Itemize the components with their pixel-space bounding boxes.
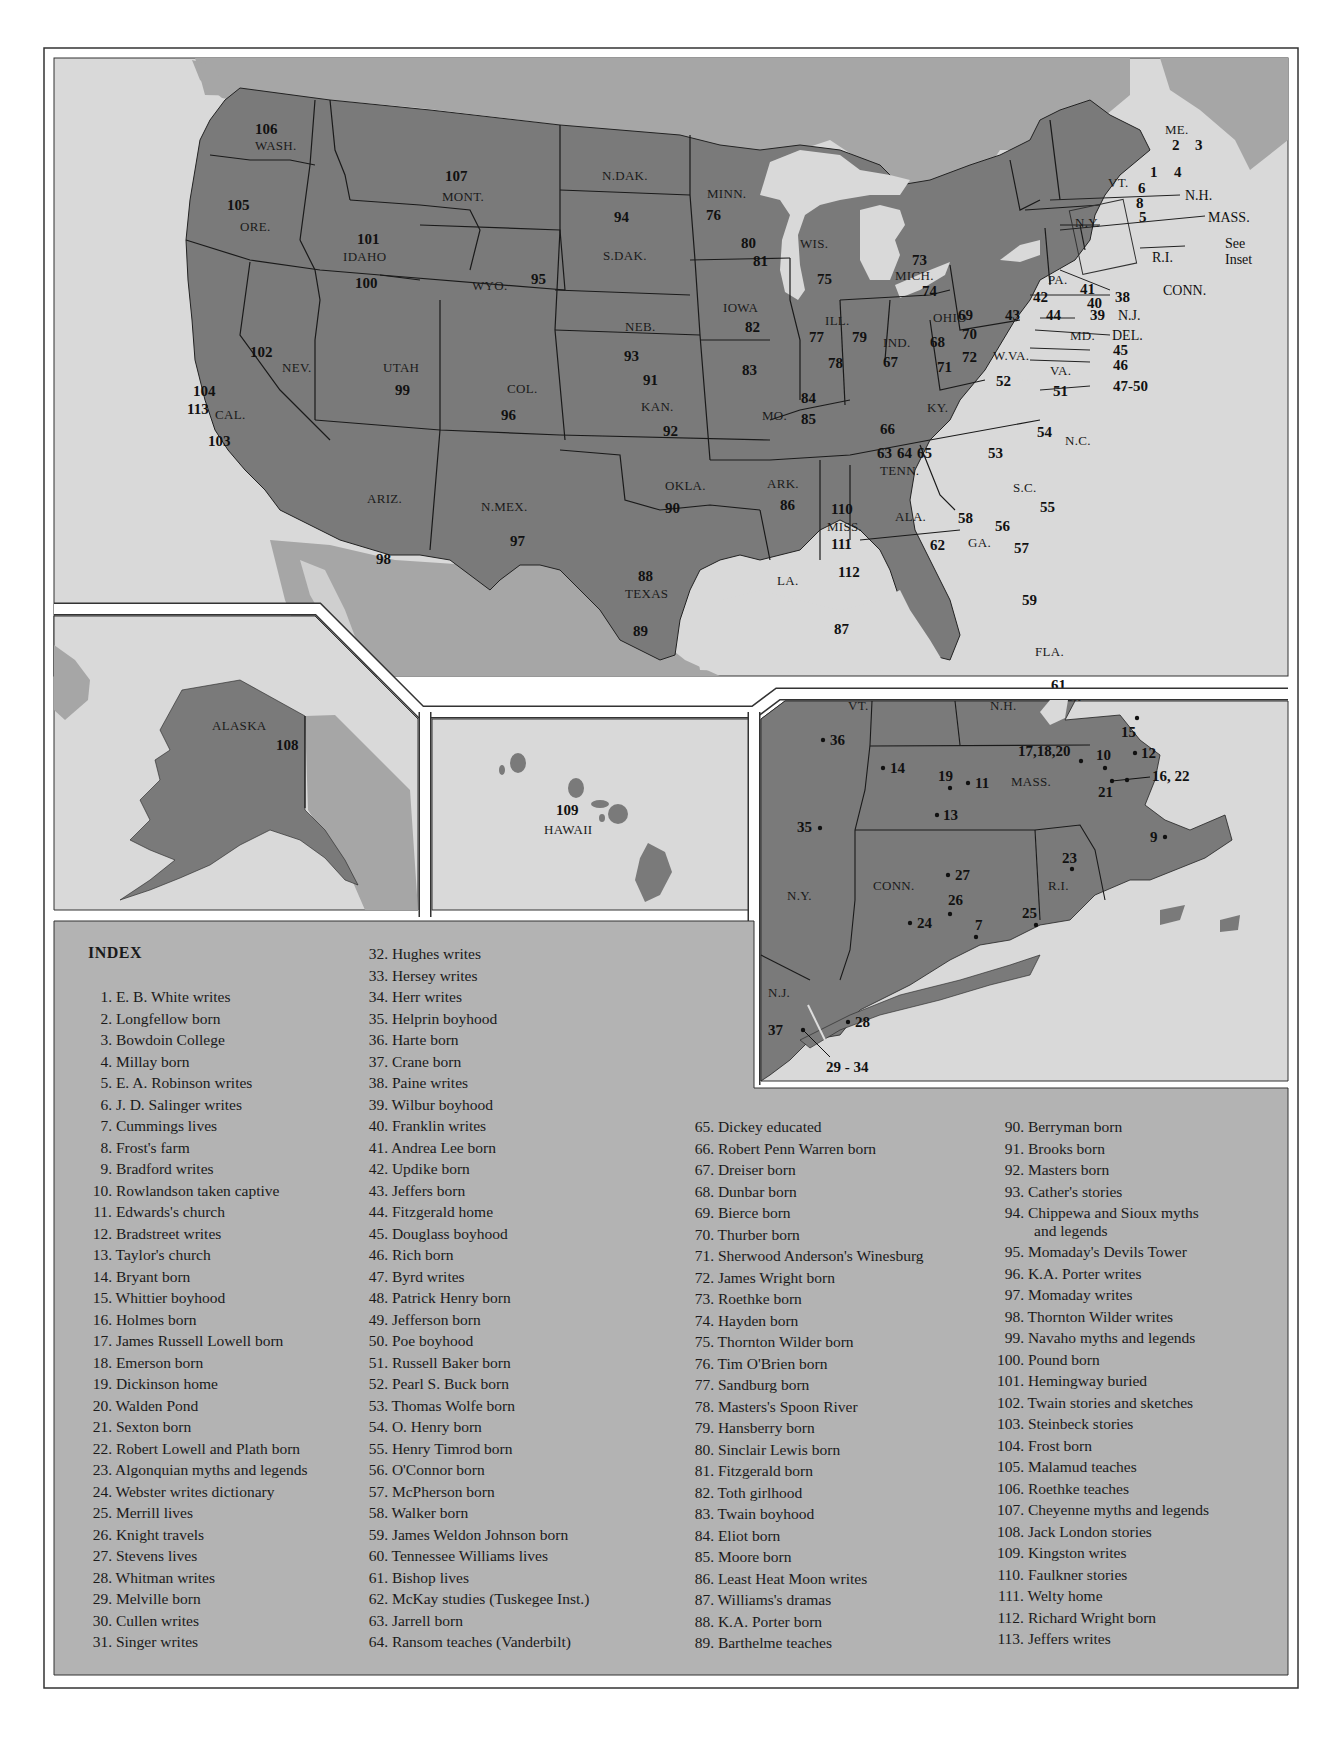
index-entry: 19. Dickinson home: [84, 1373, 307, 1395]
index-entry-text: Hersey writes: [388, 967, 478, 984]
index-entry-text: Pearl S. Buck born: [388, 1375, 509, 1392]
index-entry-number: 41.: [360, 1137, 388, 1159]
svg-text:N.H.: N.H.: [990, 698, 1016, 713]
index-entry-text: Hughes writes: [388, 945, 481, 962]
index-entry: 93. Cather's stories: [990, 1181, 1209, 1203]
index-entry-number: 66.: [686, 1138, 714, 1160]
index-entry-number: 8.: [84, 1137, 112, 1159]
svg-text:99: 99: [395, 382, 410, 398]
svg-text:14: 14: [890, 760, 906, 776]
index-entry-number: 30.: [84, 1610, 112, 1632]
index-entry: 16. Holmes born: [84, 1309, 307, 1331]
index-column-4: 90. Berryman born91. Brooks born92. Mast…: [990, 1116, 1209, 1650]
index-entry-number: 109.: [990, 1542, 1024, 1564]
index-entry: 47. Byrd writes: [360, 1266, 589, 1288]
index-entry-number: 14.: [84, 1266, 112, 1288]
svg-text:113: 113: [187, 401, 209, 417]
svg-text:39: 39: [1090, 307, 1105, 323]
index-entry-text: Williams's dramas: [714, 1591, 831, 1608]
index-entry-text: Edwards's church: [112, 1203, 225, 1220]
index-entry-number: 107.: [990, 1499, 1024, 1521]
index-entry-number: 86.: [686, 1568, 714, 1590]
index-entry: 50. Poe boyhood: [360, 1330, 589, 1352]
svg-text:100: 100: [355, 275, 378, 291]
index-entry-number: 24.: [84, 1481, 112, 1503]
svg-text:VT.: VT.: [1108, 175, 1129, 190]
index-entry-text: Cheyenne myths and legends: [1024, 1501, 1209, 1518]
index-entry: 78. Masters's Spoon River: [686, 1396, 924, 1418]
index-entry-number: 9.: [84, 1158, 112, 1180]
index-entry: 102. Twain stories and sketches: [990, 1392, 1209, 1414]
index-entry-text: Singer writes: [112, 1633, 198, 1650]
index-entry-number: 29.: [84, 1588, 112, 1610]
index-entry-number: 17.: [84, 1330, 112, 1352]
index-entry-text: Pound born: [1024, 1351, 1100, 1368]
index-entry: 79. Hansberry born: [686, 1417, 924, 1439]
svg-text:65: 65: [917, 445, 932, 461]
index-entry-number: 56.: [360, 1459, 388, 1481]
index-entry-text: Andrea Lee born: [388, 1139, 496, 1156]
svg-text:56: 56: [995, 518, 1011, 534]
index-entry-text: Roethke born: [714, 1290, 802, 1307]
index-entry-number: 48.: [360, 1287, 388, 1309]
svg-text:46: 46: [1113, 357, 1129, 373]
svg-text:PA.: PA.: [1048, 272, 1068, 287]
index-entry-text: Momaday writes: [1024, 1286, 1132, 1303]
index-entry-number: 11.: [84, 1201, 112, 1223]
index-entry: 27. Stevens lives: [84, 1545, 307, 1567]
index-entry-number: 26.: [84, 1524, 112, 1546]
svg-text:2: 2: [1172, 137, 1180, 153]
svg-text:27: 27: [955, 867, 971, 883]
index-entry: 11. Edwards's church: [84, 1201, 307, 1223]
svg-text:6: 6: [1138, 180, 1146, 196]
index-entry-text: James Russell Lowell born: [112, 1332, 283, 1349]
svg-text:84: 84: [801, 390, 817, 406]
index-entry-number: 13.: [84, 1244, 112, 1266]
svg-text:89: 89: [633, 623, 648, 639]
svg-text:54: 54: [1037, 424, 1053, 440]
index-entry: 84. Eliot born: [686, 1525, 924, 1547]
index-entry-text: Jack London stories: [1024, 1523, 1152, 1540]
index-entry-number: 10.: [84, 1180, 112, 1202]
svg-text:66: 66: [880, 421, 896, 437]
index-entry: 43. Jeffers born: [360, 1180, 589, 1202]
index-entry-text: Thurber born: [714, 1226, 800, 1243]
svg-text:15: 15: [1121, 724, 1136, 740]
index-entry-text: E. A. Robinson writes: [112, 1074, 252, 1091]
index-entry: 25. Merrill lives: [84, 1502, 307, 1524]
index-entry-text: Harte born: [388, 1031, 459, 1048]
index-entry-number: 33.: [360, 965, 388, 987]
index-entry-text: Sandburg born: [714, 1376, 809, 1393]
svg-text:UTAH: UTAH: [383, 360, 419, 375]
svg-text:69: 69: [958, 307, 973, 323]
index-entry: 39. Wilbur boyhood: [360, 1094, 589, 1116]
svg-text:19: 19: [938, 768, 953, 784]
index-entry-text: James Weldon Johnson born: [388, 1526, 568, 1543]
index-entry-number: 104.: [990, 1435, 1024, 1457]
index-entry-number: 81.: [686, 1460, 714, 1482]
svg-text:MASS.: MASS.: [1011, 774, 1051, 789]
index-entry-text: Hayden born: [714, 1312, 798, 1329]
svg-text:92: 92: [663, 423, 678, 439]
svg-text:ILL.: ILL.: [825, 313, 850, 328]
svg-text:97: 97: [510, 533, 526, 549]
svg-text:58: 58: [958, 510, 973, 526]
index-entry: 44. Fitzgerald home: [360, 1201, 589, 1223]
svg-text:7: 7: [975, 917, 983, 933]
index-entry: 106. Roethke teaches: [990, 1478, 1209, 1500]
index-entry-text: Malamud teaches: [1024, 1458, 1137, 1475]
index-entry-number: 103.: [990, 1413, 1024, 1435]
svg-text:47-50: 47-50: [1113, 378, 1148, 394]
index-entry-number: 2.: [84, 1008, 112, 1030]
svg-text:W.VA.: W.VA.: [993, 348, 1029, 363]
index-entry-number: 78.: [686, 1396, 714, 1418]
index-entry: 62. McKay studies (Tuskegee Inst.): [360, 1588, 589, 1610]
index-entry-text: Dickey educated: [714, 1118, 822, 1135]
index-entry-text: Bradstreet writes: [112, 1225, 221, 1242]
index-entry-number: 91.: [990, 1138, 1024, 1160]
index-entry-number: 16.: [84, 1309, 112, 1331]
svg-text:FLA.: FLA.: [1035, 644, 1064, 659]
index-entry: 32. Hughes writes: [360, 943, 589, 965]
index-entry: 76. Tim O'Brien born: [686, 1353, 924, 1375]
index-entry-number: 5.: [84, 1072, 112, 1094]
